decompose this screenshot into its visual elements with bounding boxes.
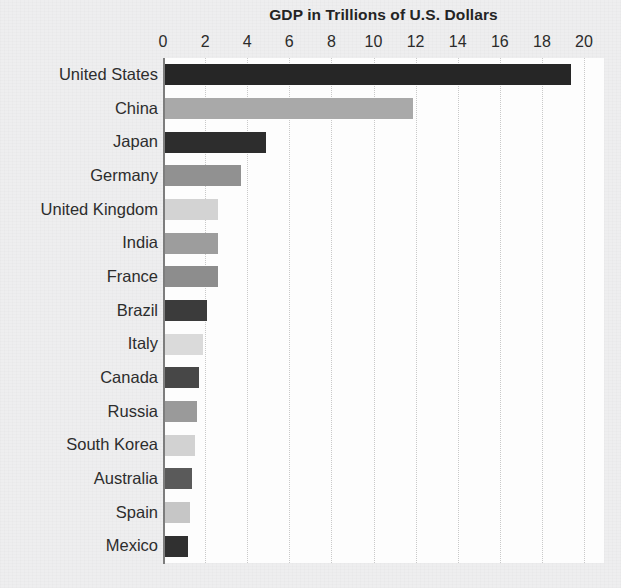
x-tick-label-6: 6 — [285, 33, 294, 51]
bar-india — [163, 233, 218, 254]
y-label-south-korea: South Korea — [0, 435, 158, 454]
y-label-russia: Russia — [0, 402, 158, 421]
y-axis-line — [163, 58, 165, 564]
y-label-france: France — [0, 267, 158, 286]
bar-united-states — [163, 64, 571, 85]
bar-australia — [163, 468, 192, 489]
y-label-australia: Australia — [0, 469, 158, 488]
y-label-united-states: United States — [0, 65, 158, 84]
bar-united-kingdom — [163, 199, 218, 220]
bar-south-korea — [163, 435, 195, 456]
y-axis-category-labels: United StatesChinaJapanGermanyUnited Kin… — [0, 58, 158, 563]
y-label-spain: Spain — [0, 503, 158, 522]
bar-spain — [163, 502, 190, 523]
plot-area — [163, 58, 604, 563]
bar-france — [163, 266, 218, 287]
bar-russia — [163, 401, 197, 422]
bar-china — [163, 98, 413, 119]
y-label-japan: Japan — [0, 132, 158, 151]
x-tick-label-12: 12 — [407, 33, 425, 51]
bar-mexico — [163, 536, 188, 557]
chart-page: GDP in Trillions of U.S. Dollars 0246810… — [0, 0, 621, 588]
bar-japan — [163, 132, 266, 153]
x-axis-tick-labels: 02468101214161820 — [0, 33, 621, 55]
y-label-india: India — [0, 233, 158, 252]
y-label-germany: Germany — [0, 166, 158, 185]
x-tick-label-20: 20 — [575, 33, 593, 51]
bar-brazil — [163, 300, 207, 321]
y-label-brazil: Brazil — [0, 301, 158, 320]
chart-title: GDP in Trillions of U.S. Dollars — [163, 6, 604, 24]
y-label-canada: Canada — [0, 368, 158, 387]
x-tick-label-10: 10 — [365, 33, 383, 51]
bar-canada — [163, 367, 199, 388]
bar-italy — [163, 334, 203, 355]
x-tick-label-14: 14 — [449, 33, 467, 51]
x-tick-label-8: 8 — [327, 33, 336, 51]
y-label-china: China — [0, 99, 158, 118]
y-label-mexico: Mexico — [0, 536, 158, 555]
y-label-italy: Italy — [0, 334, 158, 353]
x-tick-label-4: 4 — [243, 33, 252, 51]
bar-germany — [163, 165, 241, 186]
x-tick-label-0: 0 — [159, 33, 168, 51]
y-label-united-kingdom: United Kingdom — [0, 200, 158, 219]
bar-series — [163, 58, 604, 563]
x-tick-label-2: 2 — [201, 33, 210, 51]
x-tick-label-16: 16 — [491, 33, 509, 51]
x-tick-label-18: 18 — [533, 33, 551, 51]
